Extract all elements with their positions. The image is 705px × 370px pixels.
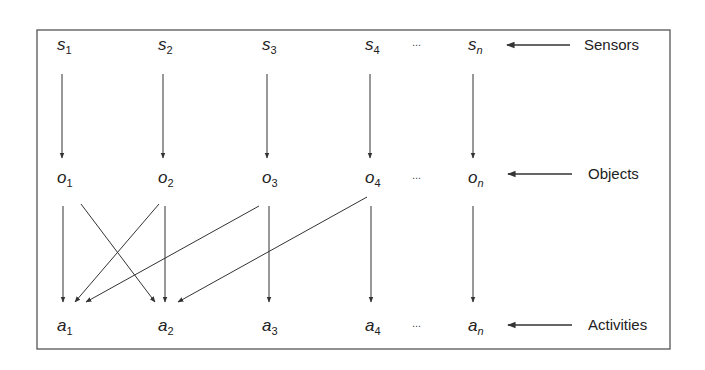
row-sensors: s1s2s3s4sn...Sensors xyxy=(57,35,639,56)
node-subscript: 1 xyxy=(66,177,72,189)
sensor-object-activity-diagram: s1s2s3s4sn...Sensorso1o2o3o4on...Objects… xyxy=(0,0,705,370)
node-an: an xyxy=(468,316,484,337)
node-sn: sn xyxy=(468,35,483,56)
row-label-activities: Activities xyxy=(588,316,647,333)
node-subscript: 1 xyxy=(66,325,72,337)
node-s4: s4 xyxy=(365,35,380,56)
node-base: o xyxy=(57,168,66,187)
node-a3: a3 xyxy=(262,316,278,337)
node-base: a xyxy=(468,316,477,335)
node-subscript: 2 xyxy=(167,44,173,56)
node-subscript: 1 xyxy=(66,44,72,56)
node-subscript: n xyxy=(477,177,483,189)
node-o4: o4 xyxy=(365,168,381,189)
edge-o1-to-a2 xyxy=(81,204,155,302)
ellipsis: ... xyxy=(412,317,421,329)
node-base: a xyxy=(158,316,167,335)
node-subscript: n xyxy=(477,325,483,337)
node-o3: o3 xyxy=(262,168,278,189)
node-subscript: 3 xyxy=(271,44,277,56)
node-base: a xyxy=(365,316,374,335)
edge-o4-to-a2 xyxy=(178,197,367,302)
node-base: a xyxy=(57,316,66,335)
node-subscript: 3 xyxy=(271,177,277,189)
node-s3: s3 xyxy=(262,35,277,56)
node-s1: s1 xyxy=(57,35,72,56)
ellipsis: ... xyxy=(412,36,421,48)
node-subscript: 3 xyxy=(271,325,277,337)
node-on: on xyxy=(468,168,484,189)
node-base: o xyxy=(262,168,271,187)
node-subscript: 4 xyxy=(374,44,380,56)
diagram-frame xyxy=(37,30,670,349)
row-label-objects: Objects xyxy=(588,165,639,182)
row-objects: o1o2o3o4on...Objects xyxy=(57,165,639,189)
row-label-sensors: Sensors xyxy=(584,36,639,53)
node-base: o xyxy=(365,168,374,187)
node-subscript: 4 xyxy=(374,177,380,189)
node-s2: s2 xyxy=(158,35,173,56)
edge-o3-to-a1 xyxy=(86,206,259,302)
edges-layer xyxy=(62,74,473,302)
node-o1: o1 xyxy=(57,168,73,189)
node-a2: a2 xyxy=(158,316,174,337)
row-activities: a1a2a3a4an...Activities xyxy=(57,316,647,337)
node-subscript: 4 xyxy=(374,325,380,337)
node-a4: a4 xyxy=(365,316,381,337)
rows-layer: s1s2s3s4sn...Sensorso1o2o3o4on...Objects… xyxy=(57,35,647,337)
node-a1: a1 xyxy=(57,316,73,337)
node-base: a xyxy=(262,316,271,335)
node-o2: o2 xyxy=(158,168,174,189)
node-base: o xyxy=(158,168,167,187)
edge-o2-to-a1 xyxy=(75,204,159,302)
node-subscript: 2 xyxy=(167,177,173,189)
ellipsis: ... xyxy=(412,169,421,181)
node-base: o xyxy=(468,168,477,187)
node-subscript: n xyxy=(477,44,483,56)
node-subscript: 2 xyxy=(167,325,173,337)
